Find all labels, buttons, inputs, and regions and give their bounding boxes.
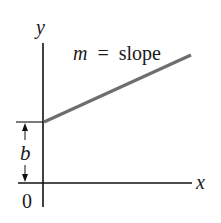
intercept-arrow-up-icon: [22, 123, 28, 140]
slope-equals: =: [97, 42, 108, 64]
intercept-label: b: [20, 141, 31, 165]
slope-text: slope: [119, 42, 161, 65]
origin-label: 0: [22, 190, 32, 212]
slope-line: [44, 55, 191, 122]
slope-label: m = slope: [73, 42, 161, 65]
intercept-arrow-down-icon: [22, 165, 28, 182]
x-axis-label: x: [195, 171, 205, 193]
slope-intercept-diagram: y x 0 b m = slope: [0, 0, 221, 223]
slope-variable: m: [73, 42, 87, 64]
y-axis-label: y: [34, 16, 45, 39]
